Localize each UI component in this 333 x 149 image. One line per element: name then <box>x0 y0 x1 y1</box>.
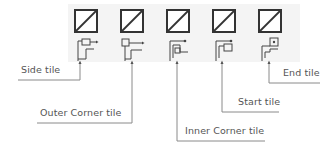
start-tile-label: Start tile <box>238 96 280 107</box>
outer-corner-tile-label: Outer Corner tile <box>40 107 122 118</box>
end-tile-label: End tile <box>283 67 320 78</box>
inner-corner-tile-label: Inner Corner tile <box>185 125 264 136</box>
side-tile-label: Side tile <box>21 64 60 75</box>
